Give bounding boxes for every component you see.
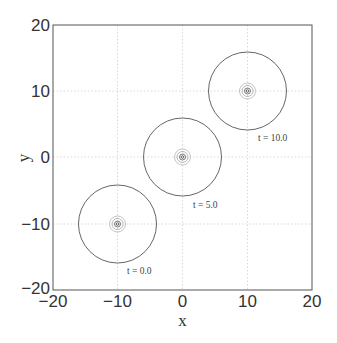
annotation-t0: t = 0.0 <box>127 266 152 276</box>
inner-contour <box>242 86 253 97</box>
x-tick-minus20: −20 <box>39 292 68 311</box>
grid <box>53 25 312 290</box>
x-axis-label: x <box>178 311 187 330</box>
x-tick-minus10: −10 <box>103 292 132 311</box>
x-tick-20: 20 <box>303 292 322 311</box>
y-tick-10: 10 <box>31 82 50 101</box>
y-axis-label: y <box>14 153 33 162</box>
x-tick-10: 10 <box>238 292 257 311</box>
y-tick-20: 20 <box>31 16 50 35</box>
y-tick-0: 0 <box>41 148 50 167</box>
inner-contour <box>246 90 249 93</box>
x-tick-labels: −20 −10 0 10 20 <box>39 292 322 311</box>
y-tick-minus10: −10 <box>21 215 50 234</box>
annotation-t5: t = 5.0 <box>193 200 218 210</box>
contour-chart: t = 0.0 t = 5.0 t = 10.0 20 10 0 −10 −20… <box>0 0 337 343</box>
annotation-t10: t = 10.0 <box>258 133 288 143</box>
x-tick-0: 0 <box>178 292 187 311</box>
